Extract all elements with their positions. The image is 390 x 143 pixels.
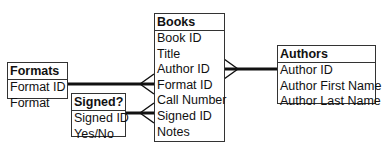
entity-title: Books: [155, 14, 224, 31]
field: Title: [155, 47, 224, 63]
field: Notes: [155, 125, 224, 141]
field: Author First Name: [278, 79, 375, 95]
entity-books[interactable]: Books Book ID Title Author ID Format ID …: [154, 13, 225, 142]
field: Format ID: [8, 80, 67, 96]
field: Author ID: [155, 62, 224, 78]
entity-authors[interactable]: Authors Author ID Author First Name Auth…: [277, 45, 376, 104]
field: Yes/No: [72, 127, 125, 143]
field: Signed ID: [72, 111, 125, 127]
field: Author Last Name: [278, 94, 375, 110]
entity-formats[interactable]: Formats Format ID Format: [7, 62, 68, 99]
entity-title: Formats: [8, 63, 67, 80]
entity-title: Authors: [278, 46, 375, 63]
field: Signed ID: [155, 109, 224, 125]
field: Call Number: [155, 93, 224, 109]
field: Format: [8, 96, 67, 112]
entity-title: Signed?: [72, 94, 125, 111]
entity-signed[interactable]: Signed? Signed ID Yes/No: [71, 93, 126, 137]
field: Book ID: [155, 31, 224, 47]
field: Author ID: [278, 63, 375, 79]
field: Format ID: [155, 78, 224, 94]
